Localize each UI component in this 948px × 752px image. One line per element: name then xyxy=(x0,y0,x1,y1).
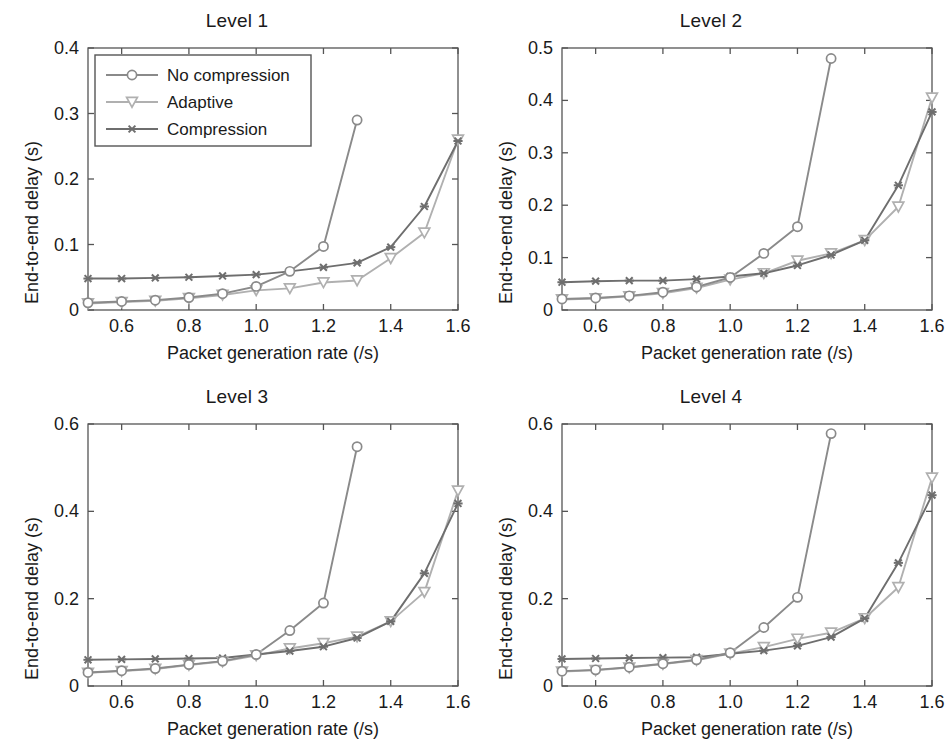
x-tick-label: 1.0 xyxy=(718,316,743,336)
y-tick-label: 0 xyxy=(69,300,79,320)
circle-marker xyxy=(658,288,667,297)
y-tick-label: 0 xyxy=(543,676,553,696)
y-tick-label: 0.1 xyxy=(528,248,553,268)
y-tick-label: 0.3 xyxy=(528,143,553,163)
circle-marker xyxy=(726,648,735,657)
x-tick-label: 1.6 xyxy=(445,692,470,712)
x-tick-label: 1.4 xyxy=(852,316,877,336)
x-marker xyxy=(252,271,261,278)
circle-marker xyxy=(625,291,634,300)
y-tick-label: 0.4 xyxy=(54,501,79,521)
x-tick-label: 0.6 xyxy=(109,692,134,712)
x-marker xyxy=(591,278,600,285)
circle-marker xyxy=(557,294,566,303)
circle-marker xyxy=(319,598,328,607)
subplot-4: Level 4End-to-end delay (s)Packet genera… xyxy=(474,376,948,752)
x-tick-label: 1.6 xyxy=(445,316,470,336)
circle-marker xyxy=(726,273,735,282)
circle-marker xyxy=(658,659,667,668)
x-tick-label: 0.8 xyxy=(176,316,201,336)
circle-marker xyxy=(151,664,160,673)
circle-marker xyxy=(83,298,92,307)
x-marker xyxy=(894,559,903,566)
x-tick-label: 0.8 xyxy=(650,316,675,336)
circle-marker xyxy=(218,657,227,666)
x-tick-label: 1.6 xyxy=(919,316,944,336)
triangle-down-marker xyxy=(927,93,938,103)
triangle-down-marker xyxy=(927,473,938,483)
x-tick-label: 1.2 xyxy=(311,692,336,712)
plot-area: 0.60.81.01.21.41.600.20.40.6 xyxy=(0,376,474,752)
legend-label: Compression xyxy=(167,120,267,139)
y-tick-label: 0.6 xyxy=(528,414,553,434)
circle-marker xyxy=(591,665,600,674)
circle-marker xyxy=(759,623,768,632)
x-marker xyxy=(625,277,634,284)
series-line xyxy=(562,478,932,672)
x-tick-label: 1.6 xyxy=(919,692,944,712)
circle-marker xyxy=(759,249,768,258)
x-tick-label: 0.6 xyxy=(109,316,134,336)
circle-marker xyxy=(591,293,600,302)
y-tick-label: 0.5 xyxy=(528,38,553,58)
y-tick-label: 0.4 xyxy=(54,38,79,58)
axes-frame xyxy=(562,424,932,686)
y-tick-label: 0.2 xyxy=(528,195,553,215)
circle-marker xyxy=(352,115,361,124)
x-tick-label: 1.2 xyxy=(311,316,336,336)
x-marker xyxy=(692,276,701,283)
plot-area: 0.60.81.01.21.41.600.20.40.6 xyxy=(474,376,948,752)
legend: No compressionAdaptiveCompression xyxy=(95,55,311,146)
circle-marker xyxy=(826,54,835,63)
circle-marker xyxy=(793,222,802,231)
x-tick-label: 1.0 xyxy=(244,692,269,712)
x-tick-label: 1.0 xyxy=(718,692,743,712)
y-tick-label: 0.4 xyxy=(528,501,553,521)
x-marker xyxy=(894,182,903,189)
x-marker xyxy=(151,275,160,282)
x-tick-label: 0.6 xyxy=(583,316,608,336)
x-tick-label: 1.4 xyxy=(852,692,877,712)
circle-marker xyxy=(184,293,193,302)
x-tick-label: 0.8 xyxy=(176,692,201,712)
circle-marker xyxy=(218,289,227,298)
legend-label: No compression xyxy=(167,66,290,85)
x-marker xyxy=(319,264,328,271)
x-marker xyxy=(151,656,160,663)
circle-marker xyxy=(285,267,294,276)
axes-frame xyxy=(88,424,458,686)
circle-marker xyxy=(692,282,701,291)
legend-label: Adaptive xyxy=(167,93,233,112)
series-line xyxy=(88,503,458,659)
y-tick-label: 0.2 xyxy=(54,589,79,609)
series-line xyxy=(562,112,932,282)
x-tick-label: 0.6 xyxy=(583,692,608,712)
circle-marker xyxy=(151,296,160,305)
series-line xyxy=(88,447,357,673)
circle-marker xyxy=(625,663,634,672)
circle-marker xyxy=(252,650,261,659)
circle-marker xyxy=(793,593,802,602)
circle-marker xyxy=(83,668,92,677)
plot-area: 0.60.81.01.21.41.600.10.20.30.40.5 xyxy=(474,0,948,376)
y-tick-label: 0 xyxy=(543,300,553,320)
circle-marker xyxy=(252,282,261,291)
circle-marker xyxy=(117,666,126,675)
subplot-2: Level 2End-to-end delay (s)Packet genera… xyxy=(474,0,948,376)
series-line xyxy=(88,491,458,673)
x-marker xyxy=(117,275,126,282)
y-tick-label: 0.3 xyxy=(54,104,79,124)
x-marker xyxy=(625,655,634,662)
x-tick-label: 0.8 xyxy=(650,692,675,712)
circle-marker xyxy=(127,70,136,79)
series-line xyxy=(562,98,932,300)
x-marker xyxy=(386,244,395,251)
subplot-1: Level 1End-to-end delay (s)Packet genera… xyxy=(0,0,474,376)
x-tick-label: 1.4 xyxy=(378,692,403,712)
x-tick-label: 1.2 xyxy=(785,692,810,712)
x-tick-label: 1.4 xyxy=(378,316,403,336)
circle-marker xyxy=(184,660,193,669)
x-tick-label: 1.2 xyxy=(785,316,810,336)
x-marker xyxy=(420,203,429,210)
x-marker xyxy=(184,274,193,281)
